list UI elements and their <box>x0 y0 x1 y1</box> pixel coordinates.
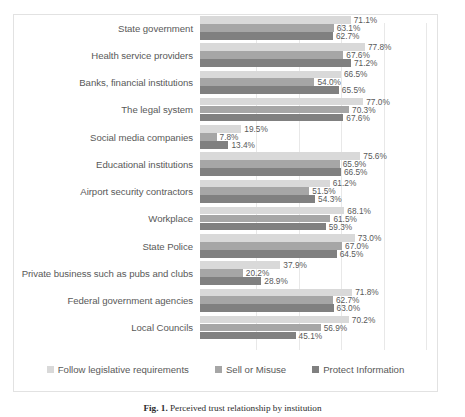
bar-value-label: 71.2% <box>351 58 378 68</box>
bar-line: 67.0% <box>200 242 425 250</box>
bar-1[interactable] <box>200 51 343 59</box>
bar-value-label: 65.5% <box>339 85 366 95</box>
figure-caption-text: Perceived trust relationship by institut… <box>170 403 322 413</box>
bar-group: 73.0%67.0%64.5% <box>200 232 425 259</box>
category-label: State Police <box>142 240 193 251</box>
chart-category-row: Educational institutions75.6%65.9%66.5% <box>0 150 425 177</box>
bar-line: 61.5% <box>200 215 425 223</box>
bar-line: 68.1% <box>200 207 425 215</box>
bar-2[interactable] <box>200 114 343 122</box>
bar-line: 63.0% <box>200 304 425 312</box>
bar-2[interactable] <box>200 250 337 258</box>
bar-2[interactable] <box>200 168 341 176</box>
bar-line: 71.1% <box>200 16 425 24</box>
legend-swatch-follow-legislative-requirements <box>47 366 54 373</box>
bar-0[interactable] <box>200 16 351 24</box>
bar-line: 71.8% <box>200 289 425 297</box>
bar-0[interactable] <box>200 152 360 160</box>
bar-line: 77.8% <box>200 43 425 51</box>
bar-1[interactable] <box>200 24 334 32</box>
bar-group: 70.2%56.9%45.1% <box>200 314 425 341</box>
bar-value-label: 13.4% <box>228 140 255 150</box>
figure-caption-number: Fig. 1. <box>143 403 167 413</box>
bar-2[interactable] <box>200 304 334 312</box>
figure-caption: Fig. 1. Perceived trust relationship by … <box>0 403 465 413</box>
chart-category-row: Social media companies19.5%7.8%13.4% <box>0 123 425 150</box>
legend-label: Follow legislative requirements <box>58 364 189 375</box>
bar-1[interactable] <box>200 242 342 250</box>
bar-value-label: 45.1% <box>296 331 323 341</box>
bar-2[interactable] <box>200 195 315 203</box>
bar-2[interactable] <box>200 59 351 67</box>
bar-1[interactable] <box>200 187 309 195</box>
chart-category-row: Local Councils70.2%56.9%45.1% <box>0 314 425 341</box>
bar-0[interactable] <box>200 43 365 51</box>
chart-category-row: State Police73.0%67.0%64.5% <box>0 232 425 259</box>
legend-item[interactable]: Protect Information <box>312 364 404 375</box>
bar-line: 70.3% <box>200 106 425 114</box>
bar-group: 71.8%62.7%63.0% <box>200 287 425 314</box>
bar-line: 77.0% <box>200 98 425 106</box>
bar-line: 66.5% <box>200 71 425 79</box>
bar-1[interactable] <box>200 106 349 114</box>
category-label: Airport security contractors <box>80 186 193 197</box>
chart-rows: State government71.1%63.1%62.7%Health se… <box>0 14 425 341</box>
bar-1[interactable] <box>200 160 340 168</box>
bar-0[interactable] <box>200 234 355 242</box>
legend-item[interactable]: Follow legislative requirements <box>47 364 189 375</box>
bar-line: 45.1% <box>200 332 425 340</box>
category-label: State government <box>118 22 193 33</box>
bar-0[interactable] <box>200 98 363 106</box>
chart-legend: Follow legislative requirementsSell or M… <box>13 364 438 375</box>
bar-value-label: 62.7% <box>333 31 360 41</box>
bar-group: 61.2%51.5%54.3% <box>200 178 425 205</box>
bar-1[interactable] <box>200 133 217 141</box>
bar-0[interactable] <box>200 289 352 297</box>
bar-line: 66.5% <box>200 168 425 176</box>
bar-line: 71.2% <box>200 59 425 67</box>
bar-value-label: 67.6% <box>343 113 370 123</box>
bar-line: 59.3% <box>200 223 425 231</box>
bar-line: 70.2% <box>200 316 425 324</box>
bar-0[interactable] <box>200 207 344 215</box>
bar-line: 65.9% <box>200 160 425 168</box>
bar-1[interactable] <box>200 215 330 223</box>
bar-2[interactable] <box>200 223 326 231</box>
chart-category-row: Banks, financial institutions66.5%54.0%6… <box>0 69 425 96</box>
bar-group: 75.6%65.9%66.5% <box>200 150 425 177</box>
chart-category-row: The legal system77.0%70.3%67.6% <box>0 96 425 123</box>
bar-2[interactable] <box>200 141 228 149</box>
bar-line: 54.0% <box>200 78 425 86</box>
bar-group: 68.1%61.5%59.3% <box>200 205 425 232</box>
bar-line: 62.7% <box>200 296 425 304</box>
bar-1[interactable] <box>200 269 243 277</box>
bar-group: 77.0%70.3%67.6% <box>200 96 425 123</box>
bar-value-label: 66.5% <box>341 167 368 177</box>
category-label: Social media companies <box>90 131 193 142</box>
bar-1[interactable] <box>200 78 314 86</box>
category-label: Private business such as pubs and clubs <box>22 267 193 278</box>
bar-1[interactable] <box>200 296 333 304</box>
bar-value-label: 64.5% <box>337 249 364 259</box>
chart-category-row: Health service providers77.8%67.6%71.2% <box>0 41 425 68</box>
bar-line: 51.5% <box>200 187 425 195</box>
legend-item[interactable]: Sell or Misuse <box>215 364 286 375</box>
bar-value-label: 59.3% <box>326 222 353 232</box>
bar-2[interactable] <box>200 277 261 285</box>
bar-line: 62.7% <box>200 32 425 40</box>
chart-category-row: Airport security contractors61.2%51.5%54… <box>0 178 425 205</box>
bar-group: 71.1%63.1%62.7% <box>200 14 425 41</box>
bar-line: 28.9% <box>200 277 425 285</box>
legend-swatch-sell-or-misuse <box>215 366 222 373</box>
bar-2[interactable] <box>200 86 339 94</box>
chart-category-row: Federal government agencies71.8%62.7%63.… <box>0 287 425 314</box>
bar-2[interactable] <box>200 332 296 340</box>
bar-value-label: 63.0% <box>334 303 361 313</box>
bar-line: 65.5% <box>200 86 425 94</box>
bar-group: 37.9%20.2%28.9% <box>200 259 425 286</box>
bar-2[interactable] <box>200 32 333 40</box>
bar-line: 37.9% <box>200 261 425 269</box>
bar-line: 54.3% <box>200 195 425 203</box>
category-label: Workplace <box>148 213 193 224</box>
legend-label: Protect Information <box>323 364 404 375</box>
